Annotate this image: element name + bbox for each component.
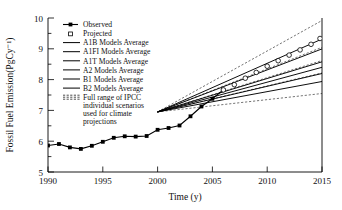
x-tick-label: 1990 — [39, 176, 58, 186]
x-tick-label: 2000 — [149, 176, 168, 186]
x-axis-title: Time (y) — [168, 192, 201, 203]
legend-open-square-icon — [69, 32, 73, 36]
x-tick-label: 1995 — [94, 176, 113, 186]
x-tick-label: 2005 — [203, 176, 222, 186]
legend-filled-square-icon — [69, 23, 73, 27]
legend-label: A2 Models Average — [83, 66, 144, 75]
legend-label: Projected — [83, 29, 112, 38]
y-tick-label: 10 — [34, 14, 44, 24]
y-axis-title: Fossil Fuel Emission(PgCy⁻¹) — [5, 37, 16, 152]
x-tick-label: 2015 — [313, 176, 332, 186]
y-tick-label: 6 — [39, 137, 44, 147]
y-tick-label: 7 — [39, 106, 44, 116]
legend-label: Observed — [83, 20, 112, 29]
legend-label: A1FI Models Average — [83, 47, 151, 56]
legend-label: projections — [83, 117, 117, 126]
legend-label: B1 Models Average — [83, 75, 144, 84]
legend-label: B2 Models Average — [83, 84, 144, 93]
legend-label: A1B Models Average — [83, 38, 149, 47]
x-tick-label: 2010 — [258, 176, 277, 186]
fossil-fuel-emission-chart: 10 9 8 7 6 5 1990 1995 2000 2005 2010 20… — [0, 0, 342, 210]
chart-canvas: 10 9 8 7 6 5 1990 1995 2000 2005 2010 20… — [0, 0, 342, 210]
y-tick-label: 9 — [39, 44, 44, 54]
y-tick-label: 8 — [39, 75, 44, 85]
legend-label: A1T Models Average — [83, 57, 149, 66]
